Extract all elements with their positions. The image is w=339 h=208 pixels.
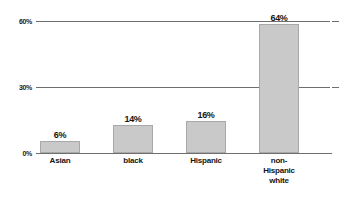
bar-asian[interactable]: 6% Asian — [40, 141, 80, 153]
bar-hispanic[interactable]: 16% Hispanic — [186, 121, 226, 153]
bar-label-non-hispanic-white: non-Hispanic white — [263, 156, 295, 186]
tick-stub-30 — [332, 87, 339, 88]
bar-non-hispanic-white[interactable]: 64% non-Hispanic white — [259, 24, 299, 153]
bar-value-hispanic: 16% — [197, 110, 214, 120]
bar-label-black: black — [123, 156, 142, 166]
bar-black[interactable]: 14% black — [113, 125, 153, 153]
bar-value-asian: 6% — [54, 130, 66, 140]
bar-label-hispanic: Hispanic — [190, 156, 222, 166]
ytick-label-0: 0% — [22, 150, 36, 157]
bar-label-asian: Asian — [50, 156, 71, 166]
ytick-label-30: 30% — [19, 84, 36, 91]
bar-value-non-hispanic-white: 64% — [270, 13, 287, 23]
axis-baseline — [36, 153, 332, 154]
bar-value-black: 14% — [124, 114, 141, 124]
tick-stub-60 — [332, 21, 339, 22]
plot-area: 60% 30% 0% 6% Asian 14% black 16% Hispan… — [36, 12, 332, 167]
ytick-label-60: 60% — [19, 18, 36, 25]
